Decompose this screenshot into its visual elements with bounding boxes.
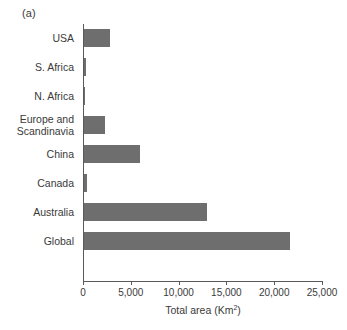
bar	[84, 116, 105, 134]
y-axis-category-labels: USAS. AfricaN. AfricaEurope and Scandina…	[0, 24, 79, 281]
x-tick-mark	[226, 281, 227, 285]
x-tick-mark	[83, 281, 84, 285]
x-tick-mark	[179, 281, 180, 285]
x-tick-label: 0	[80, 287, 86, 298]
x-tick-label: 5,000	[118, 287, 143, 298]
bar-row	[84, 198, 323, 227]
y-axis-label-text: China	[47, 149, 79, 161]
y-axis-label: S. Africa	[0, 53, 79, 82]
y-axis-label: Australia	[0, 198, 79, 227]
y-axis-label-text: Canada	[37, 178, 79, 190]
bar-series	[84, 24, 323, 281]
x-axis-title-text: Total area (Km	[165, 304, 233, 316]
bar	[84, 29, 110, 47]
x-tick-label: 10,000	[163, 287, 194, 298]
y-axis-label: Europe and Scandinavia	[0, 111, 79, 140]
y-axis-label-text: N. Africa	[34, 91, 79, 103]
bar	[84, 232, 290, 250]
y-axis-label-text: Global	[44, 236, 79, 248]
x-tick-label: 25,000	[307, 287, 338, 298]
x-tick-label: 15,000	[211, 287, 242, 298]
y-axis-label: N. Africa	[0, 82, 79, 111]
bar-row	[84, 53, 323, 82]
bar-row	[84, 82, 323, 111]
y-axis-label: Canada	[0, 169, 79, 198]
bar	[84, 174, 87, 192]
bar-row	[84, 111, 323, 140]
bar	[84, 203, 207, 221]
x-tick-label: 20,000	[259, 287, 290, 298]
x-tick-mark	[131, 281, 132, 285]
bar-row	[84, 227, 323, 256]
y-axis-label: Global	[0, 227, 79, 256]
bar-row	[84, 140, 323, 169]
bar-chart-figure: (a) USAS. AfricaN. AfricaEurope and Scan…	[0, 0, 347, 330]
x-tick-mark	[322, 281, 323, 285]
y-axis-label-text: S. Africa	[35, 62, 79, 74]
y-axis-label-text: USA	[52, 33, 79, 45]
y-axis-label-text: Europe and Scandinavia	[17, 114, 79, 137]
plot-area: USAS. AfricaN. AfricaEurope and Scandina…	[0, 0, 347, 330]
x-axis-title: Total area (Km2)	[83, 304, 323, 316]
bar	[84, 87, 85, 105]
y-axis-label: China	[0, 140, 79, 169]
x-axis-title-tail: )	[237, 304, 241, 316]
x-tick-mark	[274, 281, 275, 285]
bar	[84, 145, 140, 163]
bar-row	[84, 169, 323, 198]
y-axis-label-text: Australia	[33, 207, 79, 219]
bar	[84, 58, 86, 76]
bar-row	[84, 24, 323, 53]
y-axis-label: USA	[0, 24, 79, 53]
